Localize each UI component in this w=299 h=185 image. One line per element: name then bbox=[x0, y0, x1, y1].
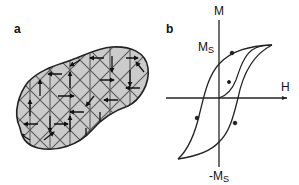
h-axis-label: H bbox=[281, 80, 290, 94]
ms-label-text: M bbox=[198, 40, 208, 54]
magnetic-domain-diagram bbox=[0, 0, 299, 185]
direction-marker bbox=[230, 51, 234, 55]
m-axis-label: M bbox=[214, 4, 224, 18]
ms-label: MS bbox=[198, 40, 214, 55]
h-axis-arrowhead bbox=[282, 96, 287, 100]
initial-magnetization-curve bbox=[219, 45, 272, 98]
domain-grain bbox=[0, 40, 220, 160]
direction-marker bbox=[228, 81, 231, 84]
neg-ms-label-sub: S bbox=[223, 174, 229, 184]
ms-label-sub: S bbox=[208, 45, 214, 55]
hysteresis-plot bbox=[166, 20, 287, 167]
neg-ms-label: -MS bbox=[209, 169, 229, 184]
ascending-branch bbox=[178, 45, 272, 159]
direction-marker bbox=[195, 116, 199, 120]
direction-marker bbox=[233, 121, 237, 125]
neg-ms-label-text: -M bbox=[209, 169, 223, 183]
panel-b-label: b bbox=[166, 22, 173, 36]
descending-branch bbox=[178, 45, 272, 159]
